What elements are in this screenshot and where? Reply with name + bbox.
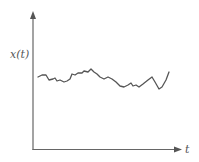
y-axis-arrow-icon	[30, 11, 36, 19]
x-axis-arrow-icon	[174, 147, 182, 153]
chart-canvas: x(t) t	[0, 0, 199, 162]
x-axis	[33, 147, 183, 153]
y-axis-label: x(t)	[10, 48, 29, 61]
series-line	[38, 69, 169, 89]
x-axis-label: t	[185, 143, 190, 156]
y-axis	[30, 11, 36, 150]
